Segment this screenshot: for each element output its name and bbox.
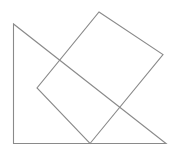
geometry-diagram — [0, 0, 175, 151]
tilted-rectangle — [37, 12, 163, 144]
